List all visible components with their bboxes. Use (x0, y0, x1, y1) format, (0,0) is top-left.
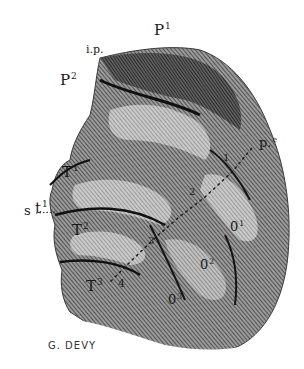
label-t1-lower: t1 (35, 200, 48, 216)
label-o1: 01 (230, 220, 244, 233)
label-n3: 3 (148, 236, 154, 246)
label-t3: T3 (86, 278, 103, 294)
label-n2: 2 (189, 187, 195, 197)
label-o3: 03 (168, 293, 182, 306)
label-t2: T2 (72, 222, 89, 238)
label-s: s (24, 204, 31, 217)
brain-illustration: P1 i.p. P2 s T1 t1 T2 T3 p.e 01 02 03 1 … (0, 0, 304, 369)
label-pe: p.e (259, 136, 277, 149)
label-n4: 4 (118, 278, 125, 289)
label-p1: P1 (154, 22, 171, 38)
label-o2: 02 (200, 258, 214, 271)
label-t1-upper: T1 (62, 164, 79, 180)
label-p2: P2 (60, 72, 77, 88)
artist-signature: G. DEVY (48, 340, 96, 351)
label-ip: i.p. (86, 44, 104, 55)
label-n1: 1 (223, 153, 229, 163)
brain-engraving (0, 0, 304, 369)
